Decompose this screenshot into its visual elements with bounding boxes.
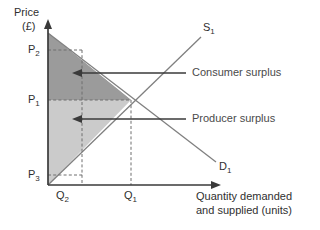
supply-curve-label-subscript: 1	[210, 27, 214, 36]
supply-curve-label: S1	[203, 21, 215, 37]
y-tick-p1: P1	[28, 93, 40, 109]
y-tick-p3: P3	[28, 168, 40, 184]
y-tick-p3-subscript: 3	[35, 174, 39, 183]
x-tick-q1: Q1	[124, 189, 137, 205]
x-tick-q2-base: Q	[56, 189, 65, 201]
y-axis-arrowhead	[44, 19, 52, 29]
x-tick-q2: Q2	[56, 189, 69, 205]
demand-curve-label: D1	[219, 160, 231, 176]
y-axis-title-line2: (£)	[22, 20, 35, 33]
y-tick-p2: P2	[28, 43, 40, 59]
x-tick-q1-base: Q	[124, 189, 133, 201]
demand-curve-label-subscript: 1	[227, 166, 231, 175]
consumer-surplus-label: Consumer surplus	[192, 66, 281, 79]
y-tick-p2-subscript: 2	[35, 49, 39, 58]
x-tick-q2-subscript: 2	[65, 195, 69, 204]
x-axis-title-line2: and supplied (units)	[196, 204, 292, 217]
x-tick-q1-subscript: 1	[133, 195, 137, 204]
y-axis-title-line1: Price	[14, 6, 39, 19]
x-axis-arrowhead	[211, 181, 221, 189]
y-tick-p1-subscript: 1	[35, 99, 39, 108]
demand-curve-label-base: D	[219, 160, 227, 172]
supply-demand-diagram: Price (£) P2 P1 P3 Q2 Q1 S1 D1 Consumer …	[0, 0, 320, 230]
x-axis-title-line1: Quantity demanded	[196, 190, 292, 203]
producer-surplus-label: Producer surplus	[192, 112, 275, 125]
